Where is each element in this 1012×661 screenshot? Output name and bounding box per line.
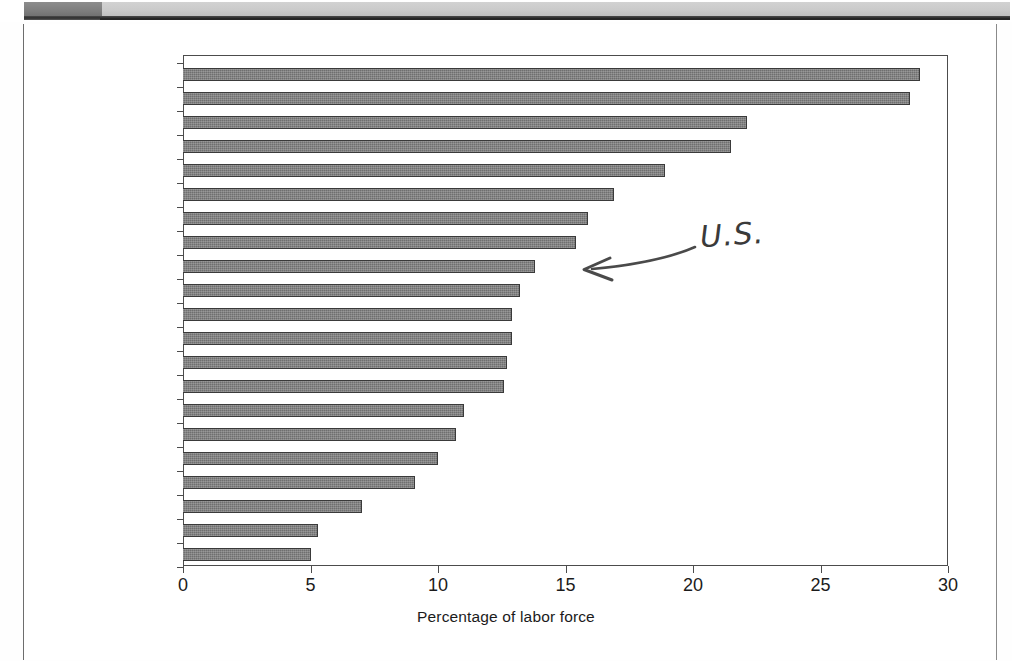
bar-row: Hungary: [183, 159, 948, 183]
y-axis-tick: [177, 63, 183, 64]
bar-row: Sweden: [183, 87, 948, 111]
scanned-page: NorwaySwedenFranceFinlandHungaryBelgiumC…: [0, 0, 1012, 661]
bar-row: Korea: [183, 519, 948, 543]
bar-row: Belgium: [183, 183, 948, 207]
bar-row: Portugal: [183, 303, 948, 327]
x-axis-tick-label: 25: [810, 575, 830, 596]
x-axis-tick: [566, 566, 567, 573]
x-axis-tick: [183, 566, 184, 573]
bar: [183, 356, 507, 369]
y-axis-tick: [177, 207, 183, 208]
y-axis-tick: [177, 255, 183, 256]
bar-row: France: [183, 111, 948, 135]
y-axis-tick: [177, 471, 183, 472]
bar-row: Germany: [183, 423, 948, 447]
x-axis-tick-label: 20: [683, 575, 703, 596]
bar: [183, 68, 920, 81]
bar-chart-figure: NorwaySwedenFranceFinlandHungaryBelgiumC…: [0, 0, 1012, 661]
bar-row: Japan: [183, 543, 948, 567]
y-axis-tick: [177, 351, 183, 352]
annotation-text: U.S.: [699, 215, 765, 254]
y-axis-tick: [177, 495, 183, 496]
y-axis-tick: [177, 423, 183, 424]
y-axis-tick: [177, 399, 183, 400]
bar-row: Austria: [183, 447, 948, 471]
bar: [183, 164, 665, 177]
bar-row: Switzerland: [183, 495, 948, 519]
x-axis-tick: [693, 566, 694, 573]
bar-row: Poland: [183, 327, 948, 351]
x-axis-tick: [948, 566, 949, 573]
bar: [183, 188, 614, 201]
y-axis-tick: [177, 159, 183, 160]
y-axis-tick: [177, 183, 183, 184]
bar: [183, 140, 731, 153]
bar: [183, 308, 512, 321]
y-axis-tick: [177, 327, 183, 328]
y-axis-tick: [177, 87, 183, 88]
bar: [183, 236, 576, 249]
y-axis-tick: [177, 303, 183, 304]
handwritten-annotation: U.S.: [560, 225, 860, 300]
bar-series: NorwaySwedenFranceFinlandHungaryBelgiumC…: [183, 55, 948, 566]
bar-row: Finland: [183, 135, 948, 159]
bar: [183, 380, 504, 393]
bar-row: Netherlands: [183, 351, 948, 375]
y-axis-tick: [177, 375, 183, 376]
bar: [183, 452, 438, 465]
bar: [183, 548, 311, 561]
y-axis-tick: [177, 279, 183, 280]
x-axis-tick-label: 0: [178, 575, 188, 596]
bar-row: Turkey: [183, 471, 948, 495]
bar-row: Mexico: [183, 399, 948, 423]
bar-row: Spain: [183, 375, 948, 399]
bar: [183, 524, 318, 537]
bar: [183, 404, 464, 417]
y-axis-tick: [177, 519, 183, 520]
bar: [183, 116, 747, 129]
x-axis-tick-label: 10: [428, 575, 448, 596]
bar: [183, 428, 456, 441]
x-axis-title: Percentage of labor force: [0, 608, 1012, 626]
x-axis-tick: [821, 566, 822, 573]
y-axis-tick: [177, 543, 183, 544]
x-axis-tick: [438, 566, 439, 573]
bar: [183, 92, 910, 105]
y-axis-tick: [177, 111, 183, 112]
bar: [183, 260, 535, 273]
y-axis-tick: [177, 447, 183, 448]
bar-row: Norway: [183, 63, 948, 87]
x-axis-tick-label: 5: [305, 575, 315, 596]
y-axis-tick: [177, 231, 183, 232]
x-axis-tick: [311, 566, 312, 573]
y-axis-tick: [177, 135, 183, 136]
x-axis-tick-label: 30: [938, 575, 958, 596]
bar: [183, 500, 362, 513]
bar: [183, 476, 415, 489]
bar: [183, 332, 512, 345]
bar: [183, 284, 520, 297]
bar: [183, 212, 588, 225]
x-axis-tick-label: 15: [555, 575, 575, 596]
